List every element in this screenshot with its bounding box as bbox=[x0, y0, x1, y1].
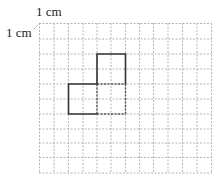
grid-diagram bbox=[0, 0, 221, 184]
